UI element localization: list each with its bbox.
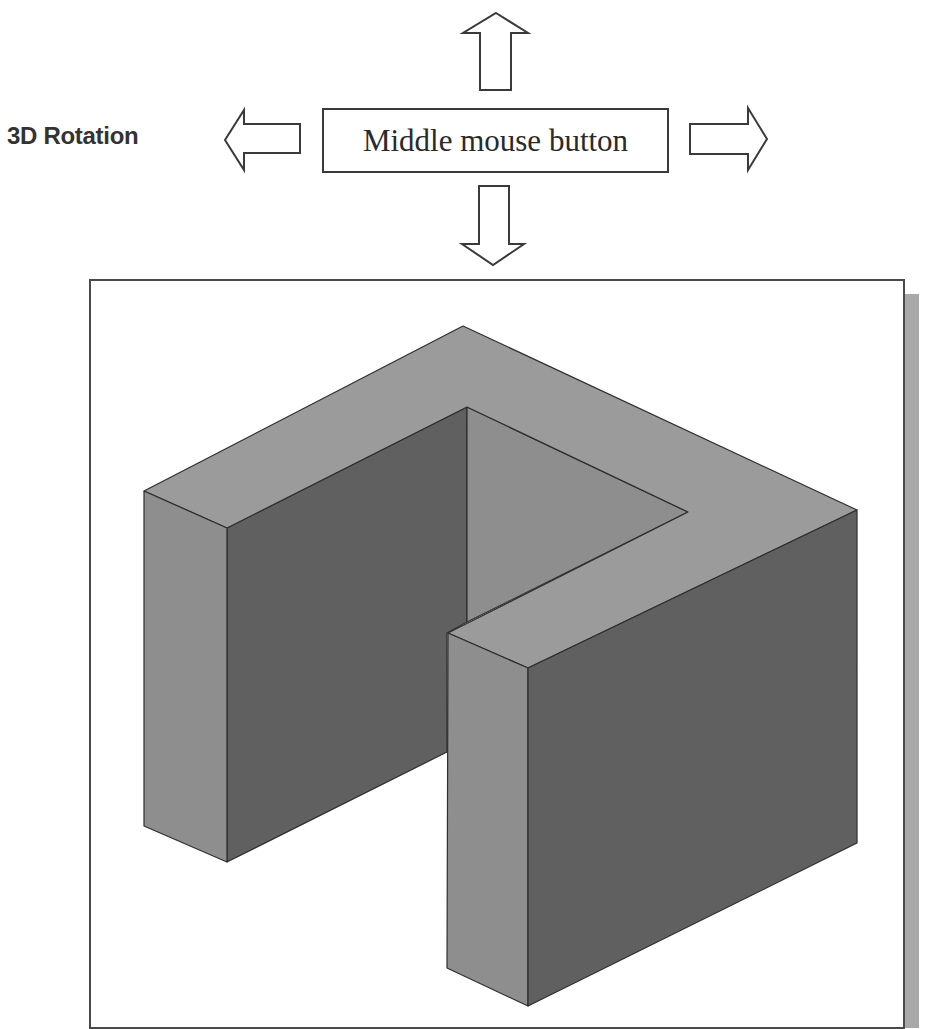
arrow-right-icon [690, 108, 767, 170]
arrow-up-icon [463, 13, 528, 90]
arrow-down-icon [462, 186, 524, 265]
arrow-left-icon [225, 110, 300, 170]
middle-mouse-button-label: Middle mouse button [322, 108, 669, 173]
viewport-shadow [905, 294, 919, 1028]
middle-mouse-button-text: Middle mouse button [363, 123, 628, 159]
graphics-viewport[interactable] [89, 279, 905, 1029]
